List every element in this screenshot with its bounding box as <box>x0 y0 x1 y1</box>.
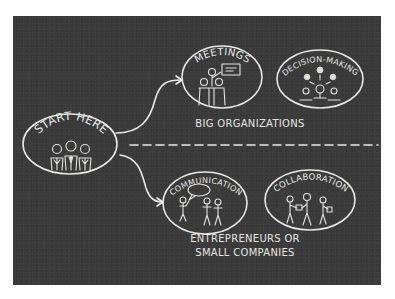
collaboration-node: COLLABORATION <box>265 170 355 230</box>
meetings-label: MEETINGS <box>193 46 253 65</box>
start-here-node: START HERE <box>23 109 117 174</box>
meeting-presentation-icon <box>199 64 240 105</box>
decision-making-node: DECISION-MAKING <box>277 50 363 108</box>
entrepreneurs-caption-line2: SMALL COMPANIES <box>195 247 294 258</box>
entrepreneurs-caption-line1: ENTREPRENEURS OR <box>190 233 300 244</box>
people-talking-icon <box>180 197 222 225</box>
handoff-boxes-icon <box>287 194 332 226</box>
big-organizations-caption: BIG ORGANIZATIONS <box>195 118 304 129</box>
group-of-people-icon <box>51 141 91 170</box>
decision-making-label: DECISION-MAKING <box>281 55 361 78</box>
start-here-label: START HERE <box>32 109 112 137</box>
arrow-to-communication <box>120 155 163 202</box>
arrow-to-meetings <box>116 80 181 133</box>
meetings-node: MEETINGS <box>182 46 262 108</box>
decision-making-icon <box>300 67 340 100</box>
diagram-canvas: START HERE MEETINGS <box>0 0 395 299</box>
collaboration-label: COLLABORATION <box>271 171 350 193</box>
communication-node: COMMUNICATION <box>163 172 247 234</box>
